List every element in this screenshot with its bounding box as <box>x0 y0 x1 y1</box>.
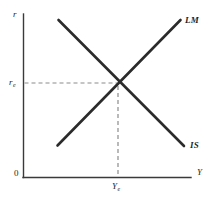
islm-plot-area <box>0 0 215 199</box>
y-axis-label: r <box>13 10 17 19</box>
x-axis-label: Y <box>197 168 202 177</box>
equilibrium-rate-label: re <box>9 78 16 87</box>
equilibrium-rate-subscript: e <box>13 82 16 88</box>
lm-curve-label: LM <box>185 16 199 25</box>
equilibrium-income-base: Y <box>112 181 117 191</box>
origin-label: 0 <box>14 169 19 178</box>
equilibrium-income-label: Ye <box>112 182 120 191</box>
equilibrium-income-subscript: e <box>118 186 121 192</box>
islm-figure: r re 0 Ye Y LM IS <box>0 0 215 199</box>
is-curve-label: IS <box>190 141 199 150</box>
